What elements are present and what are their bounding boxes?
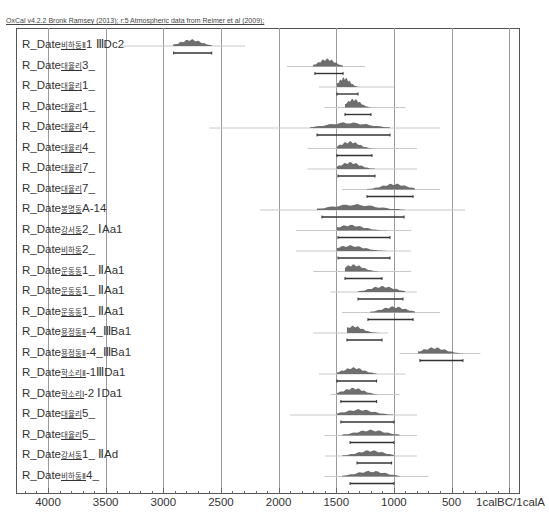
date-distribution — [325, 430, 417, 445]
axis-tick — [117, 491, 118, 494]
date-distribution — [307, 162, 417, 177]
x-tick-label: 1calBC/1calA — [476, 496, 545, 508]
x-tick-label: 2000 — [266, 496, 292, 508]
date-distribution — [290, 409, 417, 423]
date-distribution — [313, 265, 411, 281]
axis-tick — [129, 491, 130, 494]
date-distribution — [296, 245, 411, 260]
axis-tick — [48, 488, 49, 494]
date-distribution — [307, 141, 417, 157]
x-tick-label: 1000 — [381, 496, 407, 508]
axis-tick — [140, 491, 141, 494]
axis-tick — [267, 491, 268, 494]
axis-tick — [106, 488, 107, 494]
axis-tick — [232, 491, 233, 494]
axis-tick — [405, 491, 406, 494]
axis-tick — [475, 491, 476, 494]
axis-tick — [498, 491, 499, 494]
axis-tick — [279, 488, 280, 494]
x-axis-ticks — [16, 488, 520, 494]
date-distribution — [330, 388, 399, 403]
axis-tick — [36, 491, 37, 494]
axis-tick — [302, 491, 303, 494]
axis-tick — [175, 491, 176, 494]
axis-tick — [428, 491, 429, 494]
x-tick-label: 3500 — [93, 496, 119, 508]
date-distribution — [260, 204, 465, 218]
axis-tick — [463, 491, 464, 494]
date-distribution — [342, 306, 440, 321]
axis-tick — [371, 491, 372, 494]
axis-tick — [94, 491, 95, 494]
axis-tick — [417, 491, 418, 494]
axis-tick — [209, 491, 210, 494]
axis-tick — [313, 491, 314, 494]
axis-tick — [359, 491, 360, 494]
x-tick-label: 4000 — [35, 496, 61, 508]
axis-tick — [244, 491, 245, 494]
axis-tick — [382, 491, 383, 494]
date-distribution — [296, 225, 411, 239]
x-tick-label: 1500 — [323, 496, 349, 508]
axis-tick — [83, 491, 84, 494]
distributions — [0, 0, 549, 519]
axis-tick — [25, 491, 26, 494]
axis-tick — [336, 488, 337, 494]
axis-tick — [60, 491, 61, 494]
date-distribution — [325, 450, 417, 464]
axis-tick — [440, 491, 441, 494]
axis-tick — [221, 488, 222, 494]
date-distribution — [120, 39, 245, 55]
axis-tick — [509, 488, 510, 494]
date-distribution — [313, 326, 388, 342]
axis-tick — [325, 491, 326, 494]
axis-tick — [186, 491, 187, 494]
date-distribution — [325, 471, 429, 485]
x-tick-label: 2500 — [208, 496, 234, 508]
axis-tick — [394, 488, 395, 494]
axis-tick — [256, 491, 257, 494]
axis-tick — [198, 491, 199, 494]
date-distribution — [400, 347, 481, 362]
axis-tick — [452, 488, 453, 494]
date-distribution — [330, 286, 416, 301]
date-distribution — [287, 58, 365, 75]
x-tick-label: 3000 — [151, 496, 177, 508]
axis-tick — [348, 491, 349, 494]
axis-tick — [486, 491, 487, 494]
date-distribution — [325, 99, 406, 116]
date-distribution — [319, 367, 405, 383]
axis-tick — [71, 491, 72, 494]
axis-tick — [163, 488, 164, 494]
date-distribution — [209, 122, 440, 136]
date-distribution — [342, 184, 440, 198]
axis-tick — [152, 491, 153, 494]
x-tick-label: 500 — [442, 496, 461, 508]
date-distribution — [319, 77, 394, 95]
axis-tick — [290, 491, 291, 494]
